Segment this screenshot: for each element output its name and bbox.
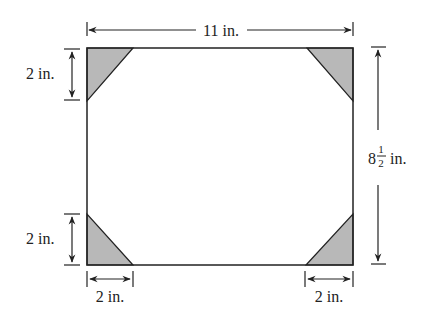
corner-triangle-top-left	[87, 48, 133, 101]
corner-triangle-bottom-left	[87, 214, 133, 265]
paper-rectangle	[87, 48, 353, 265]
top-left-label: 2 in.	[26, 65, 54, 82]
bottom-left-horizontal-label: 2 in.	[96, 288, 124, 305]
height-frac-num: 1	[378, 143, 384, 155]
corner-triangle-bottom-right	[306, 214, 353, 265]
width-dimension: 11 in.	[87, 22, 353, 39]
height-unit: in.	[390, 150, 406, 167]
bottom-left-vertical-label: 2 in.	[26, 230, 54, 247]
diagram-canvas: 11 in. 8 1 2 in. 2 in. 2 in. 2 in.	[0, 0, 434, 322]
width-label: 11 in.	[203, 22, 239, 39]
bottom-right-horizontal-dimension: 2 in.	[305, 271, 353, 305]
bottom-left-horizontal-dimension: 2 in.	[87, 271, 133, 305]
height-whole: 8	[368, 150, 376, 167]
corner-triangle-top-right	[307, 48, 353, 101]
bottom-right-horizontal-label: 2 in.	[315, 288, 343, 305]
height-frac-den: 2	[378, 157, 384, 169]
top-left-corner-dimension: 2 in.	[26, 49, 80, 100]
bottom-left-vertical-dimension: 2 in.	[26, 214, 80, 265]
height-dimension: 8 1 2 in.	[368, 47, 406, 264]
